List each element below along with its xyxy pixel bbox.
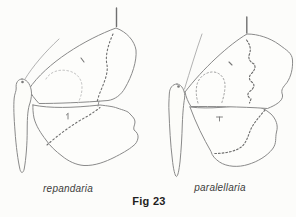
moth-drawing-paralellaria: [169, 17, 293, 177]
left-hindwing-outline: [33, 105, 138, 166]
figure-caption: Fig 23: [132, 196, 166, 207]
moth-drawing-repandaria: [14, 8, 138, 172]
left-moth-body: [14, 79, 32, 172]
left-moth-head-dot: [21, 81, 24, 84]
right-hindwing-outline: [190, 104, 277, 166]
right-moth-head-dot: [177, 85, 180, 88]
species-label-repandaria: repandaria: [43, 184, 93, 194]
right-forewing-outline: [185, 34, 293, 109]
figure-23: repandaria paralellaria Fig 23: [0, 0, 296, 217]
species-label-paralellaria: paralellaria: [194, 183, 245, 193]
left-forewing-outline: [29, 28, 136, 104]
right-moth-body: [169, 84, 185, 177]
